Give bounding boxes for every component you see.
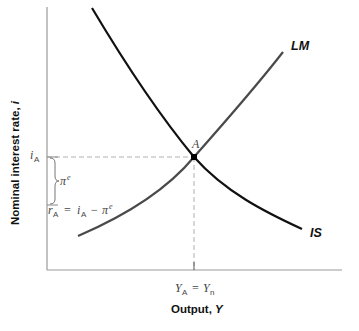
x-axis-title: Output, Y [171,303,224,315]
pi-e-label: π e [60,173,71,188]
svg-text:i: i [30,148,33,162]
svg-text:π: π [60,174,67,188]
svg-text:A: A [81,210,87,219]
svg-text:−: − [91,203,98,217]
svg-text:n: n [210,288,214,297]
lm-curve-label: LM [291,39,310,53]
is-curve-label: IS [310,226,322,240]
i-a-label: i A [30,148,40,164]
svg-text:A: A [34,155,40,164]
svg-text:A: A [182,288,188,297]
svg-text:π: π [102,203,109,217]
point-a-label: A [191,137,200,151]
svg-text:=: = [192,281,199,295]
svg-text:e: e [109,202,113,211]
svg-text:=: = [64,203,71,217]
is-curve [92,8,302,229]
pi-e-brace [50,158,59,204]
equilibrium-point-a [191,154,197,160]
svg-text:A: A [53,210,59,219]
y-axis-title: Nominal interest rate, i [9,100,21,225]
svg-text:i: i [77,203,80,217]
is-lm-diagram: A LM IS i A π e r A = i A − π e Y A = Y … [0,0,359,331]
y-a-equals-y-n-label: Y A = Y n [175,281,214,297]
svg-text:e: e [67,173,71,182]
